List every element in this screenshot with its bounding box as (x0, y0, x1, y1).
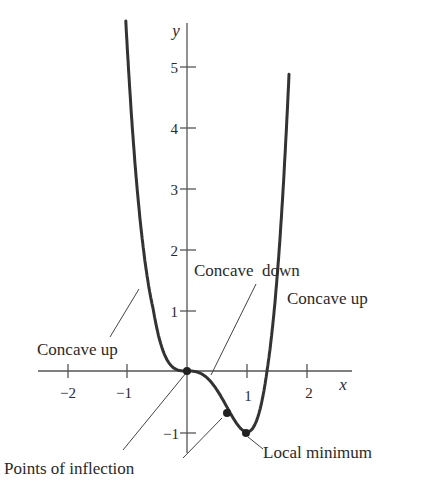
y-tick-label: 2 (171, 243, 179, 259)
points-of-inflection-label: Points of inflection (4, 459, 135, 478)
y-tick-label: 5 (171, 60, 179, 76)
x-tick-label: 2 (305, 385, 313, 401)
y-axis-label: y (170, 21, 180, 40)
concave-down-label: Concave down (194, 261, 300, 280)
x-axis-label: x (338, 375, 347, 394)
x-tick-label: 1 (244, 388, 252, 404)
y-tick-label: 4 (171, 121, 179, 137)
inflection-point-origin (183, 367, 191, 375)
y-tick-label: −1 (163, 426, 179, 442)
concave-up-left-label: Concave up (37, 340, 118, 359)
inflection-point-second (223, 409, 231, 417)
local-minimum-label: Local minimum (263, 443, 372, 462)
function-curve (126, 21, 289, 432)
y-tick-label: 3 (171, 182, 179, 198)
y-tick-label: 1 (171, 304, 179, 320)
x-tick-label: −2 (60, 385, 76, 401)
local-minimum-point (242, 429, 250, 437)
concavity-diagram: −2 −1 1 2 5 4 3 2 1 −1 y x Concave up Co… (0, 0, 425, 499)
concave-up-right-label: Concave up (287, 289, 368, 308)
x-tick-label: −1 (116, 385, 132, 401)
